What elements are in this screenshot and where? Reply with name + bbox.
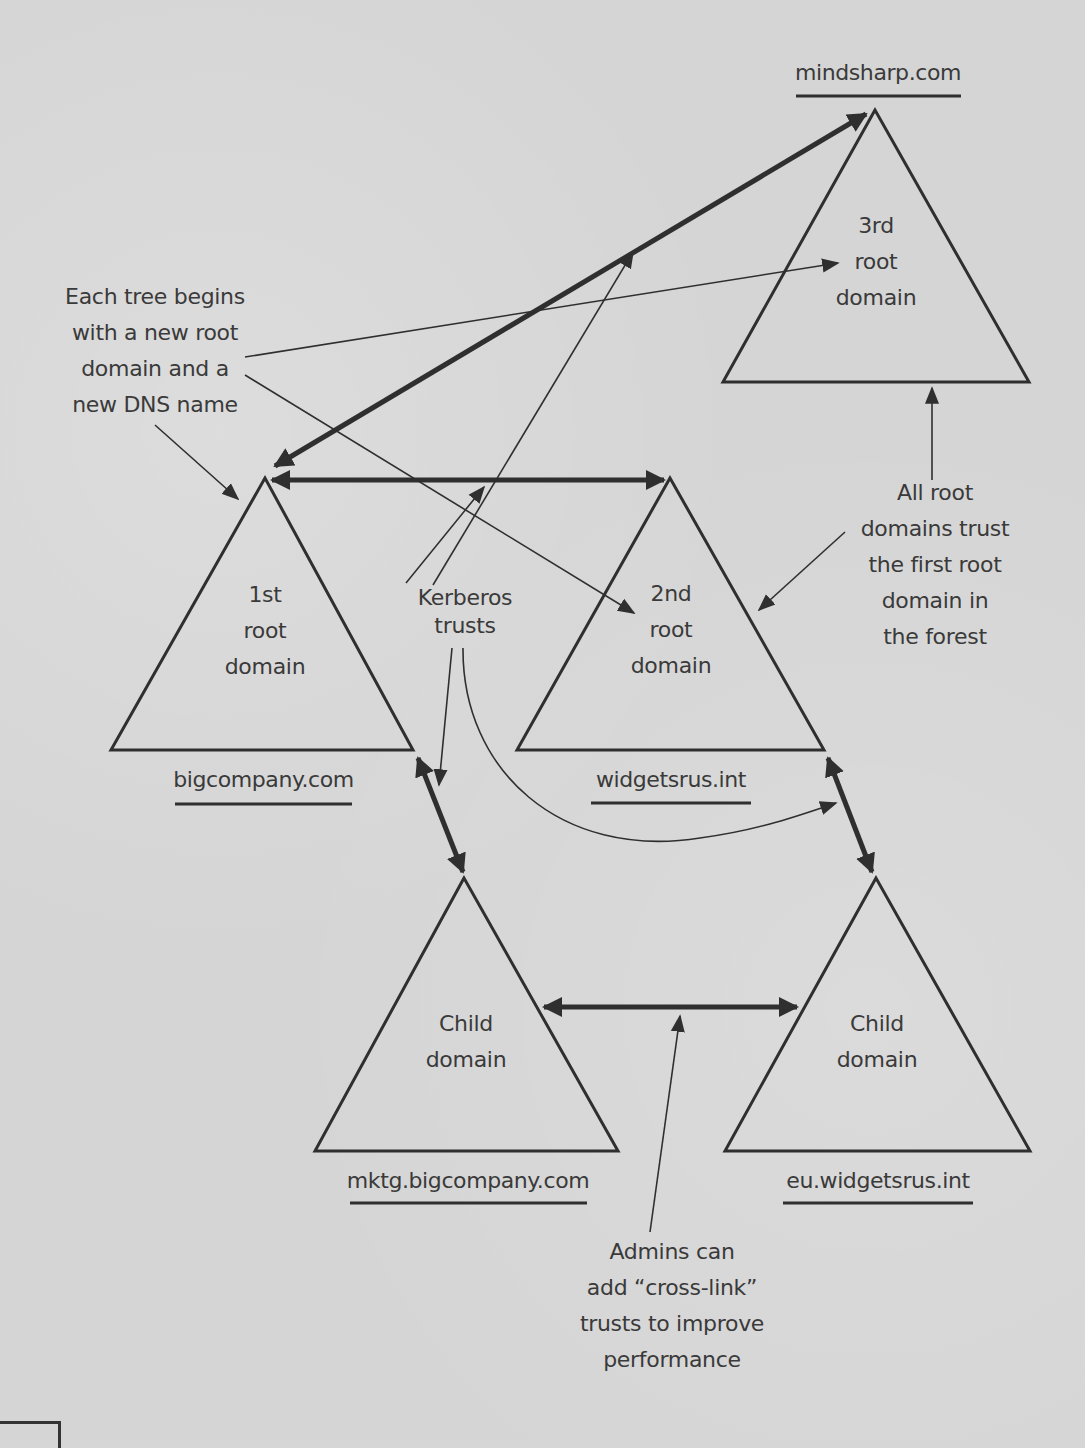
callout-arrow-to-root3 bbox=[245, 263, 838, 357]
kerberos-arrow-to-root12 bbox=[406, 487, 484, 583]
domain-label-root1: 1st root domain bbox=[205, 577, 325, 685]
domain-label-child1: Child domain bbox=[406, 1006, 526, 1078]
domain-label-root2: 2nd root domain bbox=[611, 576, 731, 684]
allroot-arrow-to-root2 bbox=[759, 532, 845, 610]
dns-name-root3: mindsharp.com bbox=[778, 59, 978, 87]
domain-label-root3: 3rd root domain bbox=[816, 208, 936, 316]
kerberos-arrow-to-child1 bbox=[439, 648, 452, 785]
callout-all-root: All root domains trust the first root do… bbox=[840, 475, 1030, 655]
dns-name-child2: eu.widgetsrus.int bbox=[758, 1167, 998, 1195]
kerberos-arrow-to-root13 bbox=[433, 252, 633, 585]
dns-name-root2: widgetsrus.int bbox=[571, 766, 771, 794]
trust-arrow-root1-root3 bbox=[275, 114, 866, 466]
callout-each-tree: Each tree begins with a new root domain … bbox=[40, 279, 270, 423]
corner-page-mark bbox=[0, 1421, 61, 1448]
domain-label-child2: Child domain bbox=[817, 1006, 937, 1078]
callout-kerberos: Kerberos trusts bbox=[400, 584, 530, 640]
admins-arrow-to-crosslink bbox=[650, 1016, 680, 1232]
dns-name-root1: bigcompany.com bbox=[155, 766, 372, 794]
callout-arrow-to-root1 bbox=[155, 425, 238, 499]
trust-arrow-root2-child2 bbox=[828, 758, 872, 872]
dns-name-child1: mktg.bigcompany.com bbox=[328, 1167, 608, 1195]
callout-admins: Admins can add “cross-link” trusts to im… bbox=[557, 1234, 787, 1378]
